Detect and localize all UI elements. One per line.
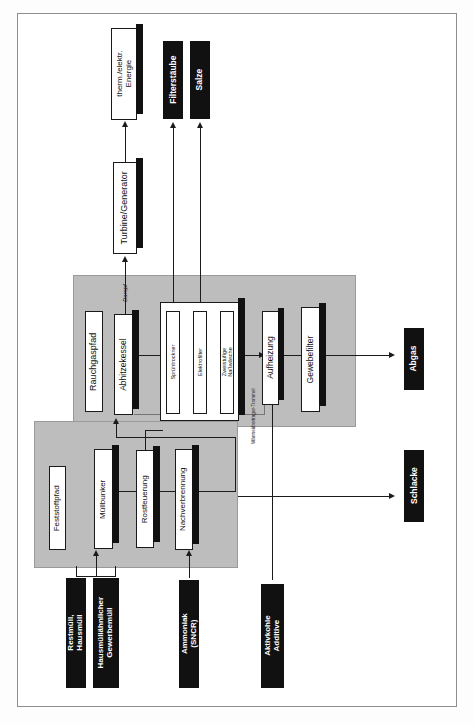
arrow-ammoniak <box>186 550 192 556</box>
arrow-kessel-feed <box>113 418 119 424</box>
output-energie[interactable]: therm./elektr. Energie <box>111 28 137 120</box>
arrow-salze <box>197 122 203 128</box>
arrow-dampf <box>122 256 128 262</box>
unit-elektrofilter[interactable]: Elektrofilter <box>193 311 207 414</box>
line-nach-right <box>193 491 235 492</box>
unit-spruehtrockner[interactable]: Sprühtrockner <box>166 311 180 414</box>
line-restmuell-up <box>76 566 77 577</box>
stream-label-dampf: Dampf <box>122 284 128 302</box>
unit-gewebefilter[interactable]: Gewebefilter <box>301 307 320 412</box>
line-gewebe-abgas <box>320 355 390 356</box>
zone-label-rauchgaspfad: Rauchgaspfad <box>85 311 103 412</box>
arrow-filterstaube <box>170 122 176 128</box>
arrow-abgas <box>389 352 395 358</box>
line-filterstaube <box>173 128 174 302</box>
zone-label-feststoffpfad: Feststoffpfad <box>49 466 66 550</box>
line-gewerbe-up <box>115 566 116 577</box>
input-restmuell-hausmuell[interactable]: Restmüll, Hausmüll <box>66 578 86 688</box>
input-aktivkohle-additive[interactable]: Aktivkohle Additive <box>261 584 284 688</box>
arrow-bunker-feed <box>93 550 99 556</box>
line-bunker-feed <box>96 556 97 577</box>
unit-turbine-generator[interactable]: Turbine/Generator <box>113 162 137 254</box>
input-ammoniak-sncr[interactable]: Ammoniak (SNCR) <box>179 580 199 688</box>
line-rost-slag-right <box>145 430 163 431</box>
line-nach-up <box>235 437 236 492</box>
unit-abhitzekessel[interactable]: Abhitzekessel <box>114 314 133 415</box>
line-to-schlacke <box>238 496 390 497</box>
unit-muellbunker[interactable]: Müllbunker <box>94 449 113 549</box>
unit-rostfeuerung[interactable]: Rostfeuerung <box>136 450 154 548</box>
arrow-energie <box>122 121 128 127</box>
line-salze <box>200 128 201 302</box>
scan-background: Rauchgaspfad Feststoffpfad Turbine/Gener… <box>0 0 474 724</box>
output-salze[interactable]: Salze <box>190 41 210 119</box>
line-kessel-feed <box>116 424 117 438</box>
output-schlacke[interactable]: Schlacke <box>404 450 424 522</box>
line-rost-slag-up <box>145 430 146 450</box>
unit-nasswaesche[interactable]: Zweistufige Naßwäsche <box>220 311 234 414</box>
unit-nachverbrennung[interactable]: Nachverbrennung <box>175 449 193 550</box>
input-gewerbemuell[interactable]: Hausmüllähnlicher Gewerbemüll <box>93 578 119 688</box>
stream-label-trommel: Wärmeübertrager-Trommel <box>251 389 256 444</box>
output-abgas[interactable]: Abgas <box>404 328 424 390</box>
line-turbine-energie <box>125 127 126 162</box>
arrow-schlacke <box>389 493 395 499</box>
unit-aufheizung[interactable]: Aufheizung <box>262 311 279 405</box>
output-filterstaube[interactable]: Filterstäube <box>163 41 183 119</box>
line-ammoniak <box>189 556 190 578</box>
line-nach-to-kessel <box>116 437 236 438</box>
